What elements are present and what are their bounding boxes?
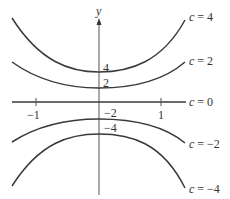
- intercept-label-neg4: −4: [104, 121, 117, 135]
- intercept-label-neg2: −2: [104, 106, 117, 120]
- level-curves-diagram: y −1 1 4 2 −2 −4 c = 4 c = 2 c = 0 c = −…: [0, 0, 230, 199]
- curve-label-c2: c = 2: [189, 54, 213, 68]
- curve-label-c4: c = 4: [189, 10, 213, 24]
- x-tick-label-neg1: −1: [27, 108, 40, 122]
- curve-label-cneg2: c = −2: [189, 137, 220, 151]
- x-tick-label-pos1: 1: [158, 108, 164, 122]
- curve-label-c0: c = 0: [189, 95, 213, 109]
- intercept-label-4: 4: [103, 61, 109, 75]
- curve-label-cneg4: c = −4: [189, 182, 220, 196]
- y-axis-label: y: [95, 4, 102, 18]
- y-axis-arrow-icon: [97, 18, 102, 25]
- intercept-label-2: 2: [103, 76, 109, 90]
